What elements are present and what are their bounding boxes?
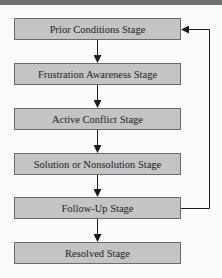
stage-follow-up: Follow-Up Stage xyxy=(14,197,181,219)
feedback-loop-arrow xyxy=(181,30,210,209)
stage-label: Resolved Stage xyxy=(65,248,130,259)
stage-frustration-awareness: Frustration Awareness Stage xyxy=(14,63,181,85)
stage-label: Frustration Awareness Stage xyxy=(38,69,157,80)
stage-label: Follow-Up Stage xyxy=(61,203,133,214)
stage-label: Prior Conditions Stage xyxy=(50,24,146,35)
stage-solution-or-nonsolution: Solution or Nonsolution Stage xyxy=(14,153,181,175)
stage-prior-conditions: Prior Conditions Stage xyxy=(14,18,181,40)
connector-lines xyxy=(0,0,222,278)
stage-active-conflict: Active Conflict Stage xyxy=(14,108,181,130)
stage-label: Active Conflict Stage xyxy=(52,114,143,125)
stage-label: Solution or Nonsolution Stage xyxy=(34,159,161,170)
stage-resolved: Resolved Stage xyxy=(14,242,181,264)
